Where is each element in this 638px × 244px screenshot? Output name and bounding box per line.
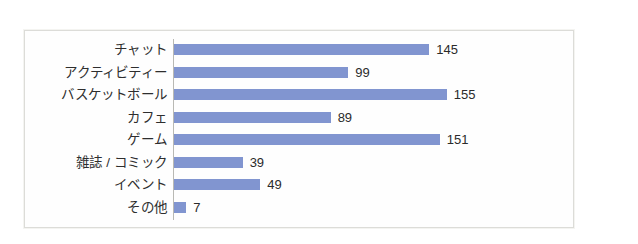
- bar-row: ゲーム 151: [25, 129, 573, 150]
- bar-category-label: カフェ: [25, 107, 167, 128]
- bar-value-label: 145: [436, 39, 458, 60]
- bar-track: 145: [174, 39, 573, 60]
- bar-value-label: 49: [267, 174, 281, 195]
- bar-value-label: 99: [355, 62, 369, 83]
- bar-value-label: 39: [250, 152, 264, 173]
- bar-rect: [174, 67, 348, 78]
- bar-track: 155: [174, 84, 573, 105]
- bar-track: 39: [174, 152, 573, 173]
- bar-category-label: その他: [25, 197, 167, 218]
- bar-track: 7: [174, 197, 573, 218]
- bar-row: 雑誌 / コミック 39: [25, 152, 573, 173]
- bar-value-label: 89: [338, 107, 352, 128]
- bar-value-label: 155: [454, 84, 476, 105]
- bar-rect: [174, 179, 260, 190]
- bar-rect: [174, 112, 331, 123]
- bar-track: 49: [174, 174, 573, 195]
- bar-row: バスケットボール 155: [25, 84, 573, 105]
- bar-row: その他 7: [25, 197, 573, 218]
- bar-rect: [174, 44, 429, 55]
- bar-track: 99: [174, 62, 573, 83]
- bar-track: 89: [174, 107, 573, 128]
- bar-category-label: ゲーム: [25, 129, 167, 150]
- bar-rect: [174, 134, 440, 145]
- bar-category-label: イベント: [25, 174, 167, 195]
- bar-row: カフェ 89: [25, 107, 573, 128]
- bar-category-label: チャット: [25, 39, 167, 60]
- bar-value-label: 151: [447, 129, 469, 150]
- bar-rect: [174, 157, 243, 168]
- bar-category-label: アクティビティー: [25, 62, 167, 83]
- bar-rect: [174, 202, 186, 213]
- bar-row: チャット 145: [25, 39, 573, 60]
- bar-category-label: 雑誌 / コミック: [25, 152, 167, 173]
- bar-row: アクティビティー 99: [25, 62, 573, 83]
- bar-track: 151: [174, 129, 573, 150]
- bar-category-label: バスケットボール: [25, 84, 167, 105]
- bar-value-label: 7: [193, 197, 200, 218]
- plot-area: チャット 145 アクティビティー 99 バスケットボール 155 カフェ: [25, 31, 573, 227]
- bar-row: イベント 49: [25, 174, 573, 195]
- chart-figure: チャット 145 アクティビティー 99 バスケットボール 155 カフェ: [24, 30, 574, 228]
- bar-rect: [174, 89, 447, 100]
